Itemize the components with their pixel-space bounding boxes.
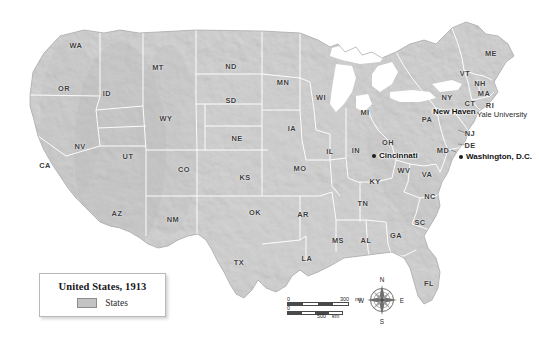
state-label-wv: WV — [398, 166, 411, 175]
state-label-ny: NY — [441, 93, 452, 102]
state-label-ma: MA — [478, 89, 490, 98]
legend-label-states: States — [105, 298, 128, 308]
state-label-ky: KY — [369, 177, 380, 186]
state-label-mt: MT — [152, 63, 164, 72]
state-label-la: LA — [302, 254, 313, 263]
compass-rose: N S E W — [356, 272, 408, 326]
state-label-sc: SC — [414, 218, 425, 227]
state-label-de: DE — [464, 141, 475, 150]
state-label-ok: OK — [249, 208, 261, 217]
city-label-washington-dc: Washington, D.C. — [466, 152, 532, 161]
state-label-va: VA — [422, 170, 433, 179]
scale-bar-miles-track — [287, 302, 349, 306]
state-label-pa: PA — [422, 115, 433, 124]
state-label-wy: WY — [160, 114, 173, 123]
state-label-al: AL — [361, 236, 372, 245]
city-marker-washington-dc[interactable] — [459, 155, 463, 159]
state-label-ks: KS — [239, 173, 250, 182]
compass-south-label: S — [380, 318, 384, 325]
state-label-ri: RI — [486, 101, 494, 110]
city-label-cincinnati: Cincinnati — [379, 151, 418, 160]
state-label-mo: MO — [294, 164, 307, 173]
scale-km-start: 0 — [287, 305, 290, 311]
state-label-il: IL — [326, 147, 333, 156]
state-label-ia: IA — [288, 124, 296, 133]
state-label-nj: NJ — [465, 129, 475, 138]
scale-miles-end: 300 — [340, 296, 349, 302]
state-label-oh: OH — [382, 138, 394, 147]
state-label-or: OR — [58, 84, 70, 93]
state-label-id: ID — [103, 89, 111, 98]
state-label-tn: TN — [358, 199, 369, 208]
scale-km-unit: km — [332, 313, 339, 319]
state-label-md: MD — [437, 146, 449, 155]
state-label-tx: TX — [234, 258, 244, 267]
state-label-mi: MI — [360, 108, 369, 117]
legend-box: United States, 1913 States — [39, 273, 166, 317]
state-label-nm: NM — [167, 215, 179, 224]
state-label-ms: MS — [332, 236, 344, 245]
map-canvas: WA OR ID MT WY NV CA UT CO AZ NM ND SD N… — [0, 0, 539, 349]
compass-east-label: E — [400, 297, 404, 304]
state-label-nv: NV — [74, 142, 85, 151]
city-marker-cincinnati[interactable] — [372, 154, 376, 158]
poi-label-yale-university: Yale University — [477, 110, 527, 119]
state-label-ar: AR — [297, 210, 309, 219]
state-label-ga: GA — [390, 231, 402, 240]
compass-west-label: W — [358, 297, 364, 304]
state-label-sd: SD — [225, 96, 236, 105]
scale-bar: 0 300 mi. 0 500 km — [287, 297, 363, 319]
legend-swatch-states — [77, 298, 97, 308]
scale-miles-start: 0 — [287, 296, 290, 302]
state-label-wa: WA — [70, 41, 83, 50]
state-label-az: AZ — [112, 209, 123, 218]
state-label-nc: NC — [424, 192, 436, 201]
state-label-mn: MN — [277, 78, 289, 87]
state-label-me: ME — [485, 49, 497, 58]
legend-entry-states: States — [40, 298, 165, 308]
state-label-fl: FL — [424, 279, 434, 288]
state-label-wi: WI — [316, 93, 326, 102]
scale-km-end: 500 — [317, 313, 326, 319]
legend-title: United States, 1913 — [40, 281, 165, 292]
city-label-new-haven: New Haven — [433, 107, 476, 116]
state-label-ne: NE — [231, 134, 242, 143]
compass-north-label: N — [380, 276, 385, 283]
state-label-ut: UT — [123, 152, 134, 161]
state-label-nd: ND — [225, 62, 237, 71]
state-label-nh: NH — [474, 79, 486, 88]
state-label-ca: CA — [39, 161, 51, 170]
state-label-co: CO — [178, 165, 190, 174]
state-label-in: IN — [352, 146, 360, 155]
state-label-vt: VT — [460, 69, 470, 78]
